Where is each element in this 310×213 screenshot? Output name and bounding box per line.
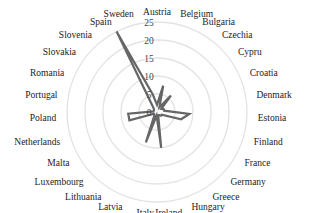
- category-label: Latvia: [98, 202, 123, 212]
- radar-chart: 0510152025 AustriaBelgiumBulgariaCzechia…: [0, 0, 310, 213]
- tick-label: 5: [147, 90, 152, 100]
- category-label: Portugal: [25, 90, 58, 100]
- category-label: Germany: [231, 177, 267, 187]
- category-label: Malta: [47, 158, 70, 168]
- category-label: Sweden: [104, 9, 134, 19]
- category-label: Hungary: [192, 202, 225, 212]
- category-label: Romania: [30, 68, 65, 78]
- category-label: Greece: [213, 192, 240, 202]
- tick-label: 0: [147, 108, 152, 118]
- category-label: France: [245, 158, 271, 168]
- category-label: Denmark: [257, 90, 293, 100]
- tick-label: 20: [144, 36, 154, 46]
- category-label: Netherlands: [14, 137, 60, 147]
- category-label: Cypru: [238, 47, 262, 57]
- category-label: Finland: [254, 137, 283, 147]
- radar-series: [117, 32, 190, 148]
- category-label: Luxembourg: [35, 177, 84, 187]
- category-label: Czechia: [222, 30, 253, 40]
- category-label: Ireland: [155, 208, 182, 213]
- series-line: [117, 32, 190, 148]
- category-label: Estonia: [258, 113, 287, 123]
- category-label: Poland: [30, 113, 57, 123]
- category-label: Slovenia: [59, 30, 93, 40]
- category-label: Slovakia: [43, 47, 77, 57]
- category-label: Italy: [137, 208, 155, 213]
- tick-label: 25: [144, 18, 154, 28]
- category-label: Lithuania: [65, 192, 102, 202]
- tick-label: 15: [144, 54, 154, 64]
- category-label: Austria: [143, 7, 172, 17]
- category-label: Bulgaria: [202, 17, 235, 27]
- tick-label: 10: [144, 72, 154, 82]
- category-label: Croatia: [250, 68, 279, 78]
- radial-tick-labels: 0510152025: [144, 18, 154, 118]
